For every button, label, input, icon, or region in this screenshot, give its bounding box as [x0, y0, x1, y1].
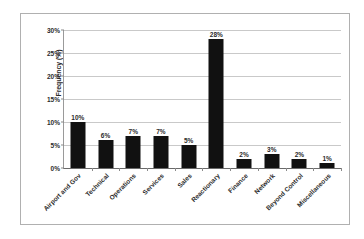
bar-value-label: 1%: [322, 155, 331, 162]
y-tick-label: 10%: [47, 119, 60, 126]
plot-area: 0%5%10%15%20%25%30% 10%6%7%7%5%28%2%3%2%…: [63, 30, 341, 169]
y-tick-label: 15%: [47, 96, 60, 103]
bar-slot: 5%: [175, 30, 203, 168]
bar-value-label: 5%: [184, 137, 193, 144]
bar[interactable]: [126, 136, 141, 168]
x-axis-labels: Airport and GovTechnicalOperationsServic…: [63, 171, 341, 227]
x-category-slot: Services: [146, 171, 174, 227]
bar[interactable]: [264, 154, 279, 168]
bar-value-label: 28%: [210, 31, 223, 38]
bar-value-label: 2%: [239, 151, 248, 158]
bar[interactable]: [98, 140, 113, 168]
x-category-slot: Miscellaneous: [313, 171, 341, 227]
x-tick-mark: [341, 168, 342, 171]
bar[interactable]: [209, 39, 224, 168]
bar[interactable]: [70, 122, 85, 168]
bar[interactable]: [292, 159, 307, 168]
bar-value-label: 2%: [295, 151, 304, 158]
y-tick-label: 5%: [51, 142, 60, 149]
y-tick-label: 30%: [47, 27, 60, 34]
bar-slot: 7%: [147, 30, 175, 168]
bar-value-label: 7%: [156, 128, 165, 135]
bar-slot: 3%: [258, 30, 286, 168]
bar-value-label: 3%: [267, 146, 276, 153]
bar-slot: 1%: [313, 30, 341, 168]
bars-group: 10%6%7%7%5%28%2%3%2%1%: [64, 30, 341, 168]
bar[interactable]: [181, 145, 196, 168]
bar-slot: 28%: [203, 30, 231, 168]
x-category-label: Network: [253, 172, 276, 195]
y-tick-label: 25%: [47, 50, 60, 57]
x-category-slot: Airport and Gov: [63, 171, 91, 227]
bar-value-label: 6%: [101, 132, 110, 139]
x-category-slot: Reactionary: [202, 171, 230, 227]
bar[interactable]: [320, 163, 335, 168]
bar-slot: 2%: [230, 30, 258, 168]
x-category-slot: Finance: [230, 171, 258, 227]
bar-slot: 2%: [286, 30, 314, 168]
x-category-slot: Operations: [119, 171, 147, 227]
x-category-label: Sales: [176, 172, 193, 189]
bar-value-label: 7%: [129, 128, 138, 135]
bar-slot: 10%: [64, 30, 92, 168]
y-tick-label: 0%: [51, 165, 60, 172]
bar[interactable]: [237, 159, 252, 168]
bar-slot: 7%: [119, 30, 147, 168]
y-tick-label: 20%: [47, 73, 60, 80]
bar-value-label: 10%: [71, 114, 84, 121]
chart-figure: Frequency (%) 0%5%10%15%20%25%30% 10%6%7…: [20, 13, 350, 225]
bar-slot: 6%: [92, 30, 120, 168]
x-category-label: Airport and Gov: [42, 172, 82, 212]
bar[interactable]: [153, 136, 168, 168]
x-category-label: Finance: [226, 172, 248, 194]
